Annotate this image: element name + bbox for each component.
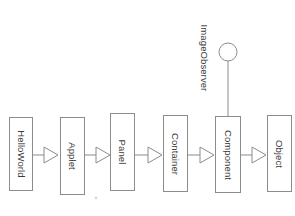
generalization-arrowhead-applet [44, 147, 58, 163]
class-label-applet: Applet [67, 142, 78, 170]
class-label-object: Object [274, 140, 285, 168]
interface-label-imageobserver: ImageObserver [199, 25, 210, 92]
imageobserver-interface-circle [219, 43, 237, 61]
diagram-canvas-svg: HelloWorld Applet Panel Container Compon… [0, 0, 295, 216]
class-label-container: Container [170, 133, 181, 175]
generalization-arrowhead-component [200, 147, 214, 163]
generalization-arrowhead-object [252, 147, 266, 163]
scan-artifact-dot [95, 197, 98, 200]
class-label-component: Component [223, 130, 234, 180]
generalization-arrowhead-container [148, 147, 162, 163]
generalization-arrowhead-panel [96, 147, 110, 163]
class-label-helloworld: HelloWorld [16, 130, 27, 177]
class-label-panel: Panel [117, 140, 128, 165]
uml-class-diagram: HelloWorld Applet Panel Container Compon… [0, 0, 295, 216]
